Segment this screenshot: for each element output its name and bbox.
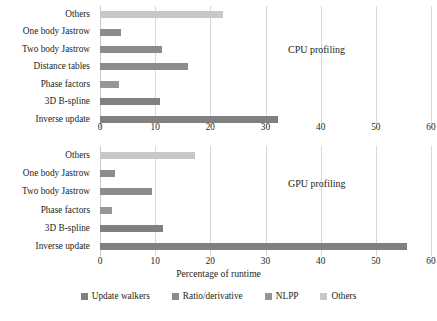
gpu-x-tick-label: 60 — [426, 256, 435, 266]
gpu-bar-row — [100, 164, 431, 182]
cpu-category-label: Inverse update — [0, 111, 95, 128]
gpu-category-text: One body Jastrow — [23, 169, 90, 178]
cpu-category-label: Phase factors — [0, 76, 95, 93]
gpu-category-label: 3D B-spline — [0, 219, 95, 237]
gpu-bar-row — [100, 219, 431, 237]
legend-swatch-icon — [265, 293, 272, 300]
gpu-bar-row — [100, 238, 431, 256]
legend-item[interactable]: Update walkers — [81, 291, 150, 301]
cpu-category-text: Distance tables — [33, 62, 90, 71]
cpu-bar — [100, 46, 162, 53]
cpu-category-text: Inverse update — [36, 115, 90, 124]
profiling-bar-chart-figure: OthersOne body JastrowTwo body JastrowDi… — [0, 0, 437, 321]
cpu-category-label: Others — [0, 6, 95, 23]
cpu-bar-row — [100, 23, 431, 40]
cpu-bar — [100, 98, 160, 105]
cpu-category-label: 3D B-spline — [0, 93, 95, 110]
cpu-plot-area — [100, 6, 431, 128]
cpu-profiling-panel: OthersOne body JastrowTwo body JastrowDi… — [0, 6, 437, 128]
cpu-x-tick-label: 40 — [316, 122, 325, 132]
gpu-bar — [100, 225, 163, 232]
cpu-x-tick-label: 50 — [371, 122, 380, 132]
cpu-gridline — [431, 6, 432, 128]
cpu-bar — [100, 29, 121, 36]
cpu-x-tick-label: 0 — [98, 122, 103, 132]
cpu-x-tick-label: 60 — [426, 122, 435, 132]
gpu-bar — [100, 243, 407, 250]
gpu-plot-area — [100, 146, 431, 256]
cpu-bar-row — [100, 76, 431, 93]
gpu-bars — [100, 146, 431, 256]
gpu-x-tick-label: 10 — [151, 256, 160, 266]
legend-swatch-icon — [81, 293, 88, 300]
cpu-category-text: Two body Jastrow — [22, 45, 90, 54]
cpu-bar-row — [100, 93, 431, 110]
cpu-bar-row — [100, 6, 431, 23]
legend-swatch-icon — [172, 293, 179, 300]
cpu-bars — [100, 6, 431, 128]
gpu-category-text: Phase factors — [41, 206, 90, 215]
gpu-category-text: Inverse update — [36, 242, 90, 251]
cpu-panel-title: CPU profiling — [288, 44, 345, 55]
gpu-bar — [100, 152, 195, 159]
cpu-x-axis-ticks: 0102030405060 — [100, 122, 431, 136]
gpu-bar — [100, 207, 112, 214]
x-axis-title: Percentage of runtime — [0, 268, 437, 279]
gpu-category-text: Two body Jastrow — [22, 187, 90, 196]
cpu-category-label: Distance tables — [0, 58, 95, 75]
gpu-bar-row — [100, 146, 431, 164]
cpu-category-text: One body Jastrow — [23, 27, 90, 36]
gpu-bar — [100, 170, 115, 177]
gpu-category-text: Others — [65, 151, 90, 160]
gpu-panel-title: GPU profiling — [288, 178, 346, 189]
cpu-category-labels: OthersOne body JastrowTwo body JastrowDi… — [0, 6, 95, 128]
gpu-x-tick-label: 20 — [206, 256, 215, 266]
legend-item[interactable]: Ratio/derivative — [172, 291, 243, 301]
legend-swatch-icon — [320, 293, 327, 300]
gpu-x-tick-label: 50 — [371, 256, 380, 266]
gpu-x-tick-label: 30 — [261, 256, 270, 266]
cpu-x-tick-label: 30 — [261, 122, 270, 132]
legend-label: Others — [331, 291, 356, 301]
gpu-category-label: Two body Jastrow — [0, 183, 95, 201]
cpu-x-tick-label: 20 — [206, 122, 215, 132]
gpu-category-label: Inverse update — [0, 238, 95, 256]
cpu-bar-row — [100, 41, 431, 58]
cpu-bar — [100, 11, 223, 18]
chart-legend: Update walkersRatio/derivativeNLPPOthers — [0, 291, 437, 301]
gpu-category-label: Others — [0, 146, 95, 164]
legend-label: NLPP — [276, 291, 299, 301]
legend-label: Ratio/derivative — [183, 291, 243, 301]
legend-item[interactable]: NLPP — [265, 291, 299, 301]
gpu-bar — [100, 188, 152, 195]
legend-label: Update walkers — [92, 291, 150, 301]
gpu-profiling-panel: OthersOne body JastrowTwo body JastrowPh… — [0, 146, 437, 256]
gpu-x-tick-label: 0 — [98, 256, 103, 266]
cpu-category-text: Others — [65, 10, 90, 19]
gpu-category-text: 3D B-spline — [45, 224, 90, 233]
cpu-category-label: Two body Jastrow — [0, 41, 95, 58]
gpu-bar-row — [100, 201, 431, 219]
cpu-category-text: Phase factors — [41, 80, 90, 89]
gpu-category-labels: OthersOne body JastrowTwo body JastrowPh… — [0, 146, 95, 256]
legend-item[interactable]: Others — [320, 291, 356, 301]
gpu-x-tick-label: 40 — [316, 256, 325, 266]
cpu-category-label: One body Jastrow — [0, 23, 95, 40]
cpu-bar-row — [100, 58, 431, 75]
cpu-bar — [100, 63, 188, 70]
gpu-gridline — [431, 146, 432, 256]
gpu-category-label: Phase factors — [0, 201, 95, 219]
cpu-category-text: 3D B-spline — [45, 97, 90, 106]
cpu-bar — [100, 81, 119, 88]
gpu-category-label: One body Jastrow — [0, 164, 95, 182]
cpu-x-tick-label: 10 — [151, 122, 160, 132]
gpu-bar-row — [100, 183, 431, 201]
